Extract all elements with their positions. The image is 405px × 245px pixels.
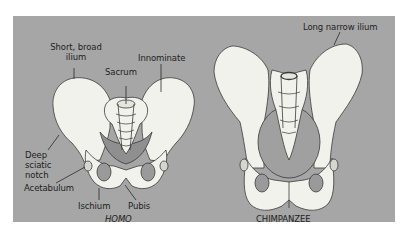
label-acetabulum: Acetabulum — [24, 183, 74, 193]
chimp-sacrum-top — [281, 73, 297, 80]
human-left-ilium — [53, 78, 110, 162]
chimp-left-acetabulum — [240, 159, 248, 171]
chimp-leader-lines — [334, 32, 340, 45]
pelvis-illustrations — [0, 0, 405, 245]
human-left-obturator — [97, 163, 111, 181]
caption-homo: HOMO — [105, 214, 132, 224]
label-deep-sciatic-notch-line2: sciatic — [25, 160, 51, 170]
human-left-acetabulum — [84, 161, 92, 171]
label-deep-sciatic-notch-line1: Deep — [25, 150, 51, 160]
chimp-right-obturator — [309, 174, 323, 192]
human-right-acetabulum — [160, 161, 168, 171]
human-right-ilium — [142, 78, 194, 162]
label-short-broad-ilium: Short, broad ilium — [50, 42, 102, 62]
human-pelvis — [53, 78, 194, 189]
label-short-broad-ilium-line2: ilium — [50, 52, 102, 62]
chimp-right-acetabulum — [330, 159, 338, 171]
chimp-pelvis — [214, 44, 362, 210]
label-deep-sciatic-notch: Deep sciatic notch — [25, 150, 51, 180]
caption-chimpanzee: CHIMPANZEE — [256, 214, 311, 224]
chimp-left-obturator — [255, 174, 269, 192]
human-right-obturator — [141, 163, 155, 181]
label-sacrum: Sacrum — [105, 67, 137, 77]
label-short-broad-ilium-line1: Short, broad — [50, 42, 102, 52]
label-innominate: Innominate — [138, 53, 185, 63]
label-ischium: Ischium — [78, 201, 110, 211]
label-long-narrow-ilium: Long narrow ilium — [303, 22, 377, 32]
label-pubis: Pubis — [128, 201, 150, 211]
label-deep-sciatic-notch-line3: notch — [25, 170, 51, 180]
